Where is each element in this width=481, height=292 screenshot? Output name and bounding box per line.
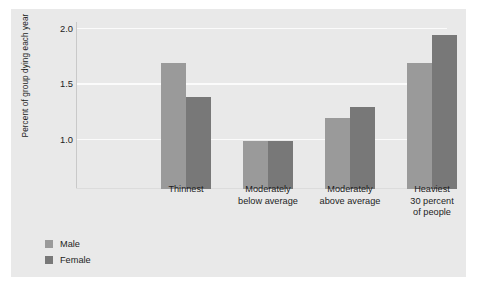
category-label-line: 30 percent — [372, 196, 481, 208]
chart-legend: MaleFemale — [45, 237, 91, 269]
bar-male[interactable] — [325, 118, 350, 189]
bar-male[interactable] — [243, 141, 268, 189]
y-tick-label: 1.5 — [33, 78, 73, 89]
category-label-line: of people — [372, 207, 481, 219]
legend-label: Female — [60, 255, 91, 265]
bar-male[interactable] — [161, 63, 186, 189]
bar-female[interactable] — [350, 107, 375, 189]
bar-group — [407, 22, 457, 189]
legend-item-female[interactable]: Female — [45, 253, 91, 267]
legend-swatch-female — [45, 256, 53, 264]
plot-area: 1.01.52.0 — [77, 22, 447, 189]
legend-label: Male — [60, 239, 80, 249]
bar-female[interactable] — [268, 141, 293, 189]
y-tick-label: 1.0 — [33, 133, 73, 144]
legend-item-male[interactable]: Male — [45, 237, 91, 251]
bar-group — [243, 22, 293, 189]
bar-group — [161, 22, 211, 189]
bar-female[interactable] — [186, 97, 211, 189]
legend-swatch-male — [45, 240, 53, 248]
y-tick-label: 2.0 — [33, 22, 73, 33]
y-axis-title: Percent of group dying each year — [21, 0, 30, 156]
y-axis-line — [76, 22, 77, 189]
category-label-line: Heaviest — [372, 184, 481, 196]
bar-female[interactable] — [432, 35, 457, 189]
chart-figure: Percent of group dying each year 1.01.52… — [11, 9, 466, 277]
category-label: Heaviest30 percentof people — [372, 184, 481, 219]
bar-group — [325, 22, 375, 189]
bar-male[interactable] — [407, 63, 432, 189]
